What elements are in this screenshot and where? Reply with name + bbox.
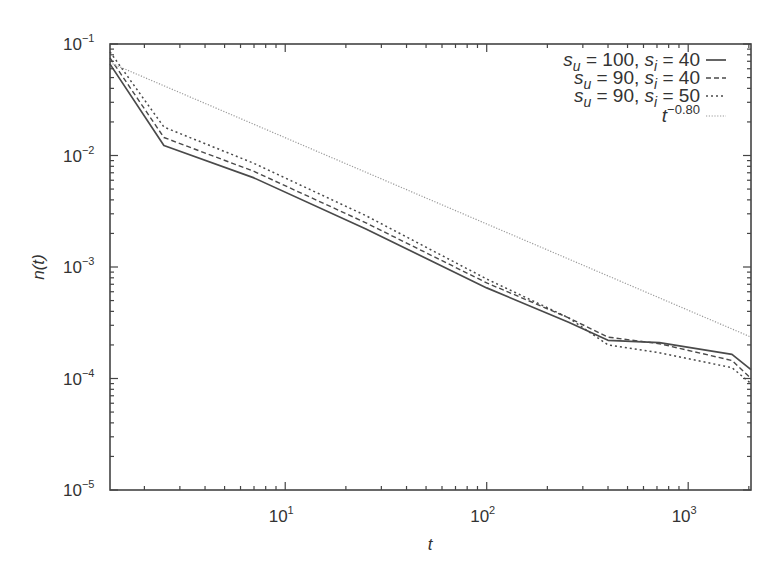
x-axis-title: t <box>428 535 434 554</box>
y-tick-label: 10−3 <box>63 255 94 277</box>
plot-frame <box>110 44 751 490</box>
legend-item: su = 90, si = 50 <box>574 85 726 110</box>
legend: su = 100, si = 40su = 90, si = 40su = 90… <box>563 49 726 126</box>
y-tick-label: 10−2 <box>63 144 94 166</box>
axis-ticks <box>110 44 751 490</box>
x-tick-label: 101 <box>269 504 294 526</box>
y-tick-label: 10−4 <box>63 367 94 389</box>
x-tick-label: 102 <box>470 504 495 526</box>
y-tick-labels: 10−110−210−310−410−5 <box>63 32 94 500</box>
y-axis-title: n(t) <box>29 254 48 280</box>
legend-item: t−0.80 <box>662 102 726 126</box>
y-tick-label: 10−5 <box>63 478 94 500</box>
x-tick-labels: 101102103 <box>269 504 697 526</box>
legend-label: t−0.80 <box>662 102 700 126</box>
x-tick-label: 103 <box>672 504 697 526</box>
chart: 101102103 10−110−210−310−410−5 t n(t) su… <box>0 0 783 574</box>
y-tick-label: 10−1 <box>63 32 94 54</box>
